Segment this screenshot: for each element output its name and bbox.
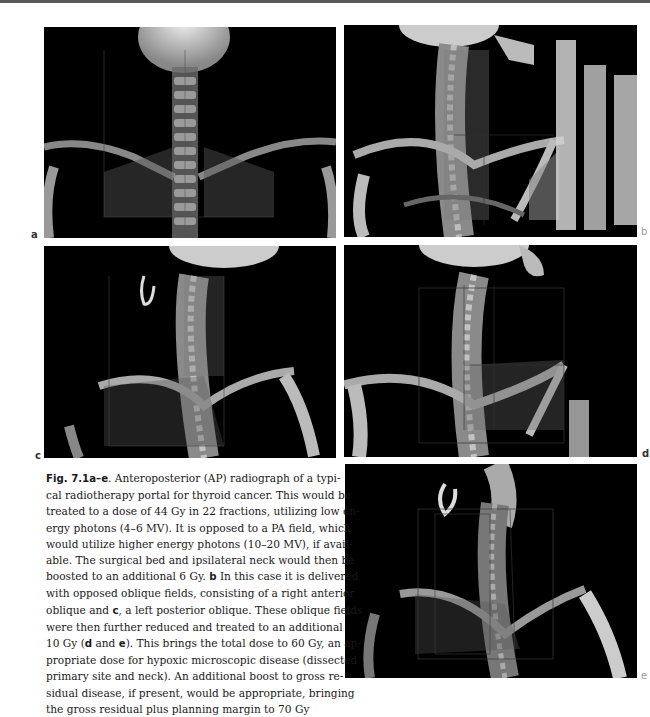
- caption-line: ergy photons (4–6 MV). It is opposed to …: [46, 520, 336, 536]
- caption-bold-ref: b: [209, 571, 216, 582]
- caption-line: were then further reduced and treated to…: [46, 619, 336, 635]
- radiograph-image-e: [345, 464, 637, 678]
- caption-bold-ref: d: [85, 638, 92, 649]
- caption-line: cal radiotherapy portal for thyroid canc…: [46, 487, 336, 503]
- radiograph-panel-e: [345, 464, 637, 678]
- caption-line: would utilize higher energy photons (10–…: [46, 536, 336, 552]
- radiograph-panel-a: [44, 27, 336, 238]
- radiograph-image-c: [44, 246, 336, 458]
- caption-line: the gross residual plus planning margin …: [46, 701, 336, 717]
- caption-line: able. The surgical bed and ipsilateral n…: [46, 552, 336, 568]
- caption-bold-ref: c: [112, 605, 118, 616]
- caption-line: propriate dose for hypoxic microscopic d…: [46, 652, 336, 668]
- caption-line: with opposed oblique fields, consisting …: [46, 585, 336, 601]
- panel-label-e: e: [641, 670, 647, 681]
- figure-caption: Fig. 7.1a–e. Anteroposterior (AP) radiog…: [46, 470, 336, 717]
- radiograph-image-d: [344, 245, 637, 457]
- caption-bold-ref: e: [119, 638, 126, 649]
- radiograph-panel-b: [344, 25, 637, 237]
- panel-label-b: b: [641, 226, 647, 237]
- caption-line: primary site and neck). An additional bo…: [46, 668, 336, 684]
- caption-line: Fig. 7.1a–e. Anteroposterior (AP) radiog…: [46, 470, 336, 487]
- radiograph-image-a: [44, 27, 336, 238]
- radiograph-panel-c: [44, 246, 336, 458]
- radiograph-image-b: [344, 25, 637, 237]
- panel-label-a: a: [31, 229, 38, 240]
- caption-line: oblique and c, a left posterior oblique.…: [46, 602, 336, 619]
- caption-bold-ref: Fig. 7.1a–e: [46, 473, 108, 484]
- panel-label-c: c: [35, 450, 41, 461]
- caption-line: 10 Gy (d and e). This brings the total d…: [46, 635, 336, 652]
- caption-line: sidual disease, if present, would be app…: [46, 685, 336, 701]
- caption-line: treated to a dose of 44 Gy in 22 fractio…: [46, 503, 336, 519]
- caption-line: boosted to an additional 6 Gy. b In this…: [46, 568, 336, 585]
- radiograph-panel-d: [344, 245, 637, 457]
- panel-label-d: d: [642, 448, 649, 459]
- page-top-rule: [0, 0, 650, 3]
